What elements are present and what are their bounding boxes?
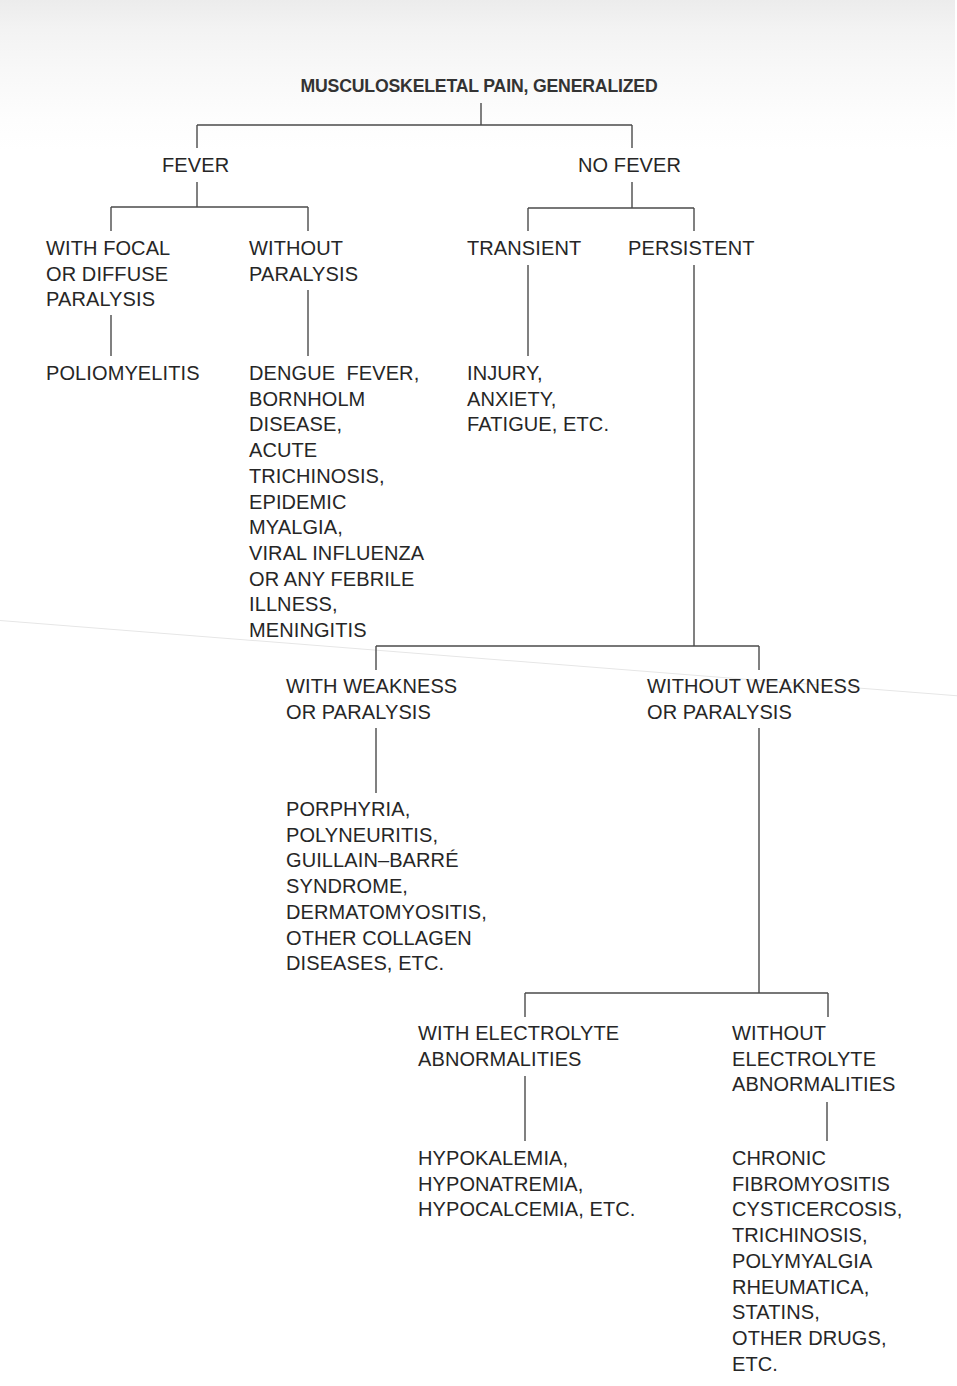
diagram-title-text: MUSCULOSKELETAL PAIN, GENERALIZED — [300, 75, 657, 97]
outcome-other-myopathies: CHRONIC FIBROMYOSITIS CYSTICERCOSIS, TRI… — [732, 1146, 902, 1377]
node-with-weakness-or-paralysis: WITH WEAKNESS OR PARALYSIS — [286, 674, 457, 725]
outcome-febrile-illnesses: DENGUE FEVER, BORNHOLM DISEASE, ACUTE TR… — [249, 361, 424, 644]
node-with-focal-or-diffuse-paralysis: WITH FOCAL OR DIFFUSE PARALYSIS — [46, 236, 170, 313]
outcome-poliomyelitis: POLIOMYELITIS — [46, 361, 200, 387]
node-fever: FEVER — [162, 153, 229, 179]
node-no-fever: NO FEVER — [578, 153, 681, 179]
node-with-electrolyte-abnormalities: WITH ELECTROLYTE ABNORMALITIES — [418, 1021, 619, 1072]
node-without-paralysis: WITHOUT PARALYSIS — [249, 236, 358, 287]
outcome-electrolyte-disorders: HYPOKALEMIA, HYPONATREMIA, HYPOCALCEMIA,… — [418, 1146, 635, 1223]
outcome-transient-causes: INJURY, ANXIETY, FATIGUE, ETC. — [467, 361, 609, 438]
node-without-weakness-or-paralysis: WITHOUT WEAKNESS OR PARALYSIS — [647, 674, 860, 725]
node-persistent: PERSISTENT — [628, 236, 755, 262]
node-transient: TRANSIENT — [467, 236, 581, 262]
diagram-title: MUSCULOSKELETAL PAIN, GENERALIZED — [0, 75, 955, 97]
node-without-electrolyte-abnormalities: WITHOUT ELECTROLYTE ABNORMALITIES — [732, 1021, 896, 1098]
outcome-neuromuscular-diseases: PORPHYRIA, POLYNEURITIS, GUILLAIN–BARRÉ … — [286, 797, 487, 977]
